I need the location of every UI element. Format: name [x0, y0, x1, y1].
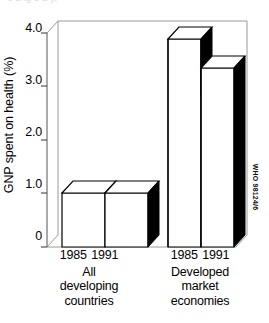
x-group-name-line-2: market	[148, 279, 252, 294]
x-group-name-line-1: All	[42, 265, 136, 280]
bar-front-face	[168, 39, 201, 247]
y-axis-ticks	[41, 33, 47, 247]
x-group-name-line-3: countries	[42, 294, 136, 309]
x-group-all-developing-countries: 1985 1991 All developing countries	[42, 248, 136, 308]
x-axis-group-labels: 1985 1991 All developing countries 1985 …	[0, 248, 269, 323]
x-year-1991: 1991	[202, 248, 229, 262]
x-year-1991: 1991	[91, 248, 118, 262]
bar-side-face	[234, 56, 245, 247]
x-group-name-line-1: Developed	[148, 265, 252, 280]
figure-container: s a ig e a y, GNP spent on health (%) 4.…	[0, 0, 269, 323]
source-reference-text: WHO 98124/6	[252, 164, 259, 211]
x-group-name: Developed market economies	[148, 265, 252, 309]
x-year-1985: 1985	[60, 248, 87, 262]
bar-front-face	[105, 193, 148, 247]
x-group-years: 1985 1991	[148, 248, 252, 263]
x-group-developed-market-economies: 1985 1991 Developed market economies	[148, 248, 252, 308]
x-group-name-line-3: economies	[148, 294, 252, 309]
bar-front-face	[62, 193, 105, 247]
bar-1991-all-developing-countries	[105, 181, 159, 247]
source-reference-code: WHO 98124/6	[248, 152, 262, 222]
bar-1991-developed-market-economies	[201, 56, 245, 247]
x-group-name-line-2: developing	[42, 279, 136, 294]
bar-front-face	[201, 68, 234, 247]
x-group-name: All developing countries	[42, 265, 136, 309]
x-group-years: 1985 1991	[42, 248, 136, 263]
x-year-1985: 1985	[171, 248, 198, 262]
bar-side-face	[148, 181, 159, 247]
